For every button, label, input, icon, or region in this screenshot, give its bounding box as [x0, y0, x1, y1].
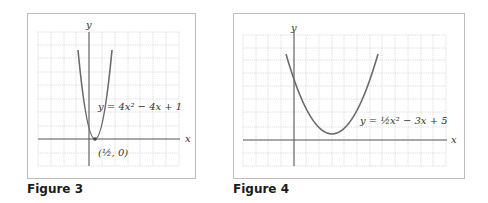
grid	[243, 35, 446, 166]
vertex-point	[93, 137, 97, 141]
figure-3-graph: y x y = 4x² − 4x + 1 (½, 0)	[0, 0, 230, 185]
equation-label: y = ½x² − 3x + 5	[359, 115, 448, 126]
x-axis-label: x	[451, 134, 457, 145]
figure-4-graph: y x y = ½x² − 3x + 5	[230, 0, 488, 185]
y-axis-label: y	[85, 19, 92, 30]
figure-4-caption: Figure 4	[233, 182, 289, 196]
vertex-label: (½, 0)	[98, 147, 128, 158]
x-axis-label: x	[185, 133, 191, 144]
y-axis-label: y	[290, 22, 297, 33]
grid	[38, 32, 179, 166]
figure-3-caption: Figure 3	[27, 182, 83, 196]
equation-label: y = 4x² − 4x + 1	[97, 101, 182, 112]
